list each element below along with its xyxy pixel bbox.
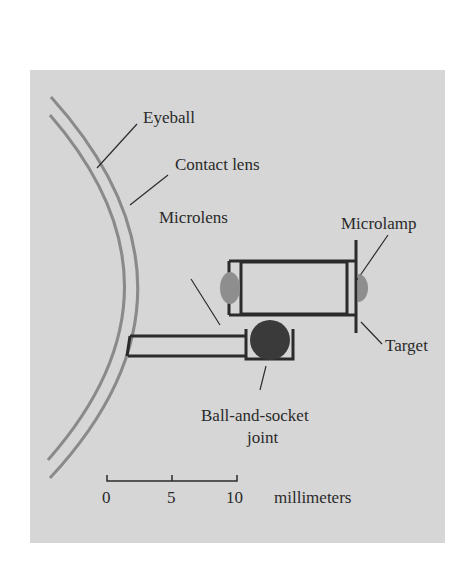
- contact-lens-device-diagram: Eyeball Contact lens Microlens Microlamp…: [0, 0, 473, 564]
- scale-tick-5: 5: [167, 488, 176, 507]
- scale-tick-10: 10: [226, 488, 243, 507]
- scale-tick-0: 0: [102, 488, 111, 507]
- microlamp-label: Microlamp: [341, 214, 417, 233]
- scale-unit-label: millimeters: [274, 488, 351, 507]
- ball-joint: [250, 320, 290, 360]
- target-label: Target: [385, 336, 428, 355]
- joint-label-line1: Ball-and-socket: [201, 406, 309, 425]
- microlens-label: Microlens: [159, 208, 228, 227]
- joint-label-line2: joint: [246, 428, 278, 447]
- diagram-panel: [30, 70, 445, 543]
- contact-lens-label: Contact lens: [175, 155, 260, 174]
- microlens: [220, 272, 240, 304]
- eyeball-label: Eyeball: [143, 108, 195, 127]
